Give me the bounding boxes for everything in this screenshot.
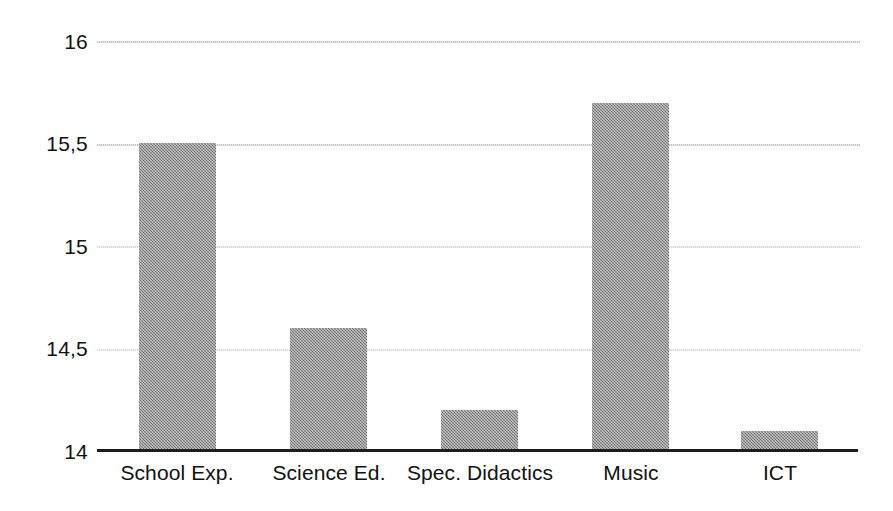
- y-axis-tick-16: 16: [0, 31, 88, 52]
- y-axis-tick-14-5: 14,5: [0, 338, 88, 359]
- bar-science-ed[interactable]: [290, 328, 367, 451]
- bar-spec-didactics[interactable]: [441, 410, 518, 451]
- x-axis-label-school-exp: School Exp.: [120, 462, 233, 483]
- x-axis-label-ict: ICT: [763, 462, 797, 483]
- y-axis-tick-14: 14: [0, 441, 88, 462]
- x-axis-label-science-ed: Science Ed.: [272, 462, 385, 483]
- bar-music[interactable]: [592, 103, 669, 451]
- x-axis-label-spec-didactics: Spec. Didactics: [407, 462, 553, 483]
- gridline-16: [97, 41, 860, 43]
- bar-chart: 16 15,5 15 14,5 14 School Exp. Science E…: [0, 0, 893, 511]
- plot-area: [97, 41, 860, 451]
- x-axis-label-music: Music: [603, 462, 658, 483]
- bar-school-exp[interactable]: [139, 143, 216, 451]
- bar-ict[interactable]: [741, 431, 818, 451]
- x-axis-line: [97, 449, 858, 452]
- y-axis-tick-15: 15: [0, 236, 88, 257]
- y-axis-tick-15-5: 15,5: [0, 133, 88, 154]
